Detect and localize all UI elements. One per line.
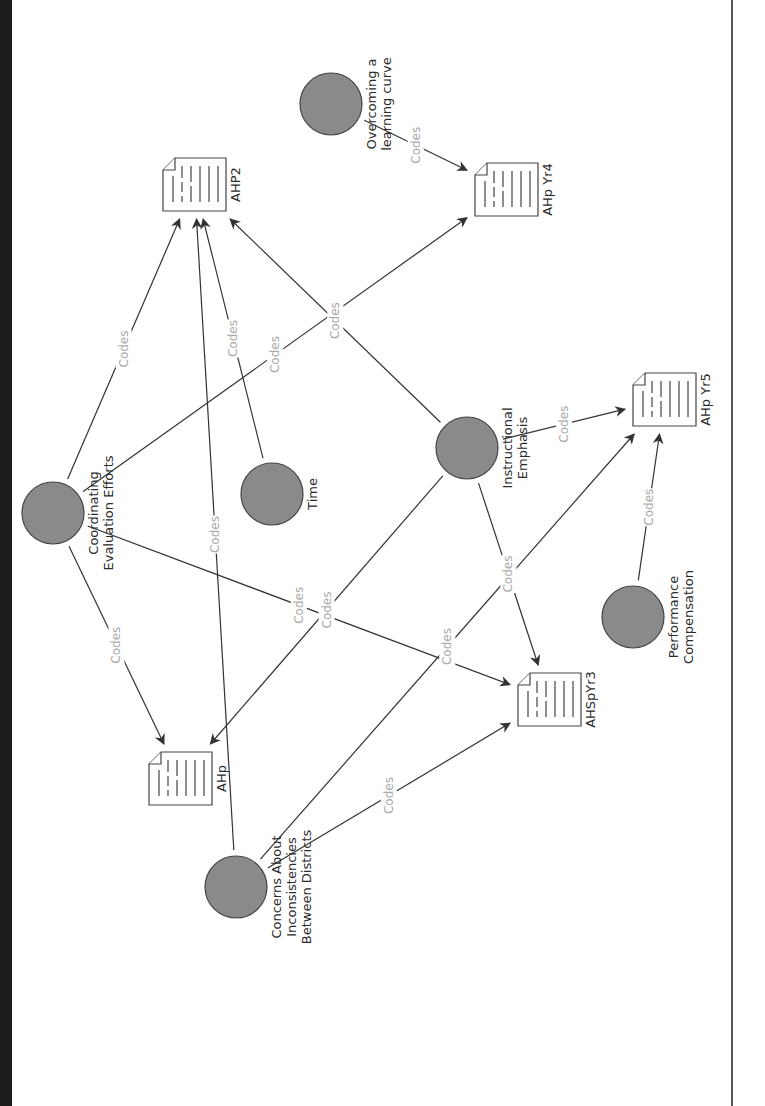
code-node-time[interactable]: Time xyxy=(241,463,320,525)
svg-text:Codes: Codes xyxy=(557,406,571,443)
code-node-performance[interactable]: PerformanceCompensation xyxy=(602,570,696,664)
code-circle-icon[interactable] xyxy=(241,463,303,525)
code-label: Performance xyxy=(666,576,681,658)
document-icon[interactable] xyxy=(149,752,212,805)
document-icon[interactable] xyxy=(633,373,696,426)
document-icon[interactable] xyxy=(475,163,538,216)
svg-text:Codes: Codes xyxy=(328,302,342,339)
document-node-ahpyr4[interactable]: AHp Yr4 xyxy=(475,163,555,216)
code-circle-icon[interactable] xyxy=(436,417,498,479)
edge-label: Codes xyxy=(108,626,124,664)
edge-label: Codes xyxy=(641,488,657,526)
edge-label: Codes xyxy=(500,555,516,593)
edge-label: Codes xyxy=(267,336,283,374)
document-label: AHSpYr3 xyxy=(583,671,598,728)
document-label: AHp Yr4 xyxy=(540,163,555,216)
svg-text:Codes: Codes xyxy=(226,320,240,357)
code-label: learning curve xyxy=(379,57,394,151)
document-node-ahpyr5[interactable]: AHp Yr5 xyxy=(633,373,713,426)
svg-text:Codes: Codes xyxy=(208,516,222,553)
code-node-coordinating[interactable]: CoordinatingEvaluation Efforts xyxy=(22,455,116,570)
edge-label: Codes xyxy=(381,777,397,815)
svg-text:Codes: Codes xyxy=(440,628,454,665)
code-circle-icon[interactable] xyxy=(22,482,84,544)
code-circle-icon[interactable] xyxy=(300,73,362,135)
code-node-overcoming[interactable]: Overcoming alearning curve xyxy=(300,57,394,151)
svg-text:Codes: Codes xyxy=(109,627,123,664)
code-node-concerns[interactable]: Concerns AboutInconsistenciesBetween Dis… xyxy=(205,830,314,945)
code-circle-icon[interactable] xyxy=(205,856,267,918)
code-label: Compensation xyxy=(681,570,696,664)
code-label: Emphasis xyxy=(515,417,530,480)
document-icon[interactable] xyxy=(518,673,581,726)
svg-text:Codes: Codes xyxy=(642,489,656,526)
svg-text:Codes: Codes xyxy=(268,336,282,373)
network-diagram: CodesCodesCodesCodesCodesCodesCodesCodes… xyxy=(0,0,765,1106)
document-node-ahspyr3[interactable]: AHSpYr3 xyxy=(518,671,598,728)
document-label: AHp xyxy=(214,765,229,792)
document-label: AHP2 xyxy=(228,167,243,202)
document-node-ahp2[interactable]: AHP2 xyxy=(163,158,243,211)
svg-text:Codes: Codes xyxy=(409,127,423,164)
code-label: Coordinating xyxy=(86,471,101,554)
code-circle-icon[interactable] xyxy=(602,586,664,648)
code-label: Time xyxy=(305,478,320,511)
document-icon[interactable] xyxy=(163,158,226,211)
code-label: Concerns About xyxy=(269,835,284,938)
svg-text:Codes: Codes xyxy=(320,591,334,628)
svg-text:Codes: Codes xyxy=(292,587,306,624)
code-label: Between Districts xyxy=(299,830,314,945)
code-label: Overcoming a xyxy=(364,59,379,150)
code-label: Inconsistencies xyxy=(284,837,299,937)
edge-label: Codes xyxy=(225,320,241,358)
edge-label: Codes xyxy=(556,405,572,443)
edge-label: Codes xyxy=(327,302,343,340)
edge-label: Codes xyxy=(116,330,132,368)
code-label: Evaluation Efforts xyxy=(101,455,116,570)
edge-label: Codes xyxy=(207,516,223,554)
svg-text:Codes: Codes xyxy=(382,777,396,814)
edge-label: Codes xyxy=(291,586,307,624)
svg-text:Codes: Codes xyxy=(501,556,515,593)
document-node-ahp[interactable]: AHp xyxy=(149,752,229,805)
code-node-instructional[interactable]: InstructionalEmphasis xyxy=(436,407,530,488)
svg-text:Codes: Codes xyxy=(117,331,131,368)
document-label: AHp Yr5 xyxy=(698,373,713,426)
edge-label: Codes xyxy=(408,126,424,164)
code-label: Instructional xyxy=(500,407,515,488)
nodes-layer: Overcoming alearning curveCoordinatingEv… xyxy=(22,57,713,944)
edge-label: Codes xyxy=(319,591,335,629)
edge-label: Codes xyxy=(439,628,455,666)
